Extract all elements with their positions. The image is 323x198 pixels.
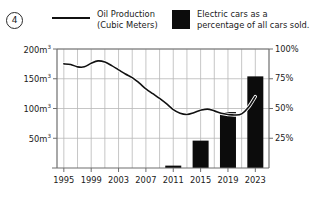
- legend-label-line1: Electric cars as a: [197, 9, 268, 19]
- plot-area: 50m3100m3150m3200m3 25%50%75%100% 199519…: [0, 44, 323, 198]
- question-number: 4: [6, 12, 23, 29]
- line-swatch-icon: [52, 17, 90, 19]
- legend-label-line2: percentage of all cars sold.: [197, 20, 309, 30]
- x-axis-tick-label: 2011: [160, 175, 186, 185]
- legend-label-line2: (Cubic Meters): [97, 20, 158, 30]
- bar: [193, 141, 209, 168]
- right-axis-tick-label: 25%: [275, 133, 293, 143]
- left-axis-tick-label: 100m3: [24, 103, 51, 114]
- left-axis-tick-label: 150m3: [24, 73, 51, 84]
- x-axis-tick-label: 2019: [215, 175, 241, 185]
- x-axis-tick-label: 2023: [242, 175, 268, 185]
- x-axis-tick-label: 1995: [51, 175, 77, 185]
- legend-label-electric-cars: Electric cars as apercentage of all cars…: [197, 9, 309, 31]
- bar-swatch-icon: [172, 10, 190, 29]
- bar: [247, 76, 263, 168]
- right-axis-tick-label: 100%: [275, 44, 299, 54]
- x-axis-tick-label: 2003: [106, 175, 132, 185]
- bar: [220, 112, 236, 168]
- right-axis-tick-label: 50%: [275, 103, 293, 113]
- left-axis-tick-label: 50m3: [29, 133, 51, 144]
- chart-figure: 4 Oil Production(Cubic Meters) Electric …: [0, 0, 323, 198]
- left-axis-tick-label: 200m3: [24, 44, 51, 55]
- x-axis-tick-label: 2007: [133, 175, 159, 185]
- legend-label-oil-production: Oil Production(Cubic Meters): [97, 9, 158, 31]
- chart-legend: Oil Production(Cubic Meters) Electric ca…: [52, 9, 317, 41]
- right-axis-tick-label: 75%: [275, 73, 293, 83]
- x-axis-tick-label: 2015: [188, 175, 214, 185]
- legend-label-line1: Oil Production: [97, 9, 155, 19]
- x-axis-tick-label: 1999: [78, 175, 104, 185]
